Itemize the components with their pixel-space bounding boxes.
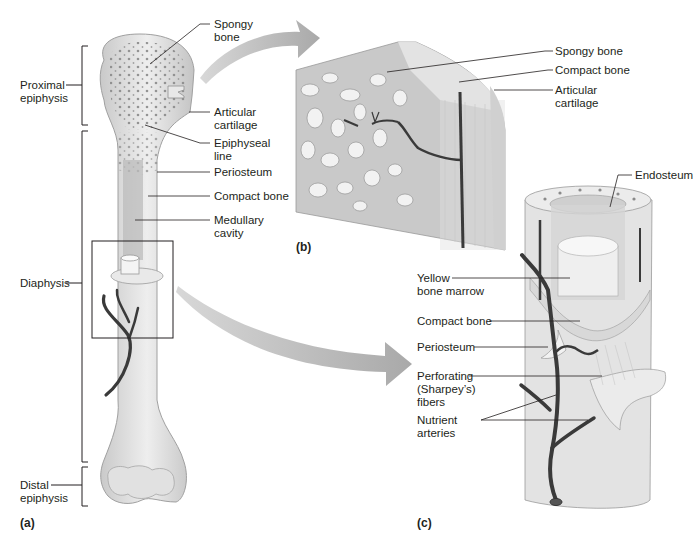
label-yellow-bone-marrow: Yellow bone marrow [417,272,484,298]
label-line: Endosteum [635,169,693,182]
label-periosteum-c: Periosteum [417,341,475,354]
long-bone-drawing [100,34,194,503]
label-line: Nutrient [417,414,457,427]
label-articular-cartilage-a: Articular cartilage [214,106,257,132]
label-line: bone marrow [417,285,484,298]
panel-label-c: (c) [417,516,432,530]
label-line: bone [214,31,253,44]
label-line: Spongy [214,18,253,31]
label-line: Distal [20,479,68,492]
label-line: cartilage [555,97,598,110]
label-line: Epiphyseal [214,137,270,150]
label-periosteum-a: Periosteum [214,166,272,179]
label-line: Articular [214,106,257,119]
label-compact-bone-c: Compact bone [417,315,492,328]
label-line: line [214,150,270,163]
label-spongy-bone-a: Spongy bone [214,18,253,44]
label-line: Periosteum [214,166,272,179]
label-line: Periosteum [417,341,475,354]
label-diaphysis: Diaphysis [20,277,70,290]
label-line: Diaphysis [20,277,70,290]
label-compact-bone-b: Compact bone [555,64,630,77]
label-epiphyseal-line: Epiphyseal line [214,137,270,163]
panel-label-a: (a) [20,516,35,530]
label-line: Spongy bone [555,45,623,58]
label-line: Perforating [417,370,476,383]
label-line: fibers [417,396,476,409]
spongy-bone-block [296,42,505,250]
label-line: Compact bone [555,64,630,77]
label-line: Proximal [20,79,68,92]
label-articular-cartilage-b: Articular cartilage [555,84,598,110]
label-spongy-bone-b: Spongy bone [555,45,623,58]
label-line: epiphysis [20,92,68,105]
label-endosteum: Endosteum [635,169,693,182]
label-proximal-epiphysis: Proximal epiphysis [20,79,68,105]
label-line: cartilage [214,119,257,132]
label-line: epiphysis [20,492,68,505]
region-brackets [51,46,88,506]
label-compact-bone-a: Compact bone [214,190,289,203]
label-line: cavity [214,227,264,240]
label-line: Compact bone [214,190,289,203]
label-line: Compact bone [417,315,492,328]
label-line: Medullary [214,214,264,227]
label-line: (Sharpey’s) [417,383,476,396]
label-perforating-fibers: Perforating (Sharpey’s) fibers [417,370,476,409]
label-nutrient-arteries: Nutrient arteries [417,414,457,440]
label-line: arteries [417,427,457,440]
label-medullary-cavity: Medullary cavity [214,214,264,240]
label-line: Yellow [417,272,484,285]
label-line: Articular [555,84,598,97]
label-distal-epiphysis: Distal epiphysis [20,479,68,505]
anatomy-illustration [0,0,699,544]
panel-label-b: (b) [296,240,311,254]
arrow-to-panel-c [176,286,412,386]
